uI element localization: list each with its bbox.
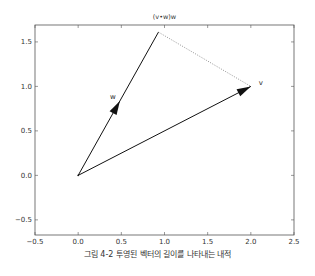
y-tick-label: −0.5: [15, 216, 32, 224]
y-tick-label: 1.0: [21, 83, 32, 91]
vector-label-v: v: [259, 79, 263, 87]
arrowhead-w-icon: [110, 101, 120, 115]
y-tick-label: 0.0: [21, 172, 32, 180]
vector-v: [78, 86, 251, 175]
projection-gap-line: [158, 32, 250, 86]
y-tick-label: 1.5: [21, 38, 32, 46]
x-tick-label: −0.5: [27, 238, 44, 246]
plot-frame: [35, 25, 294, 235]
figure-caption: 그림 4-2 투영된 벡터의 길이를 나타내는 내적: [0, 248, 315, 259]
chart-title: (v•w)w: [153, 13, 177, 21]
origin-point: [77, 175, 79, 177]
arrowhead-v-icon: [237, 86, 251, 96]
x-tick-label: 0.0: [73, 238, 84, 246]
x-tick-label: 2.5: [288, 238, 299, 246]
vector-label-w: w: [110, 93, 116, 101]
y-tick-label: 0.5: [21, 127, 32, 135]
chart: (v•w)w−0.50.00.51.01.52.02.5−0.50.00.51.…: [0, 0, 315, 276]
x-tick-label: 2.0: [245, 238, 256, 246]
x-tick-label: 1.0: [159, 238, 170, 246]
x-tick-label: 0.5: [116, 238, 127, 246]
x-tick-label: 1.5: [202, 238, 213, 246]
